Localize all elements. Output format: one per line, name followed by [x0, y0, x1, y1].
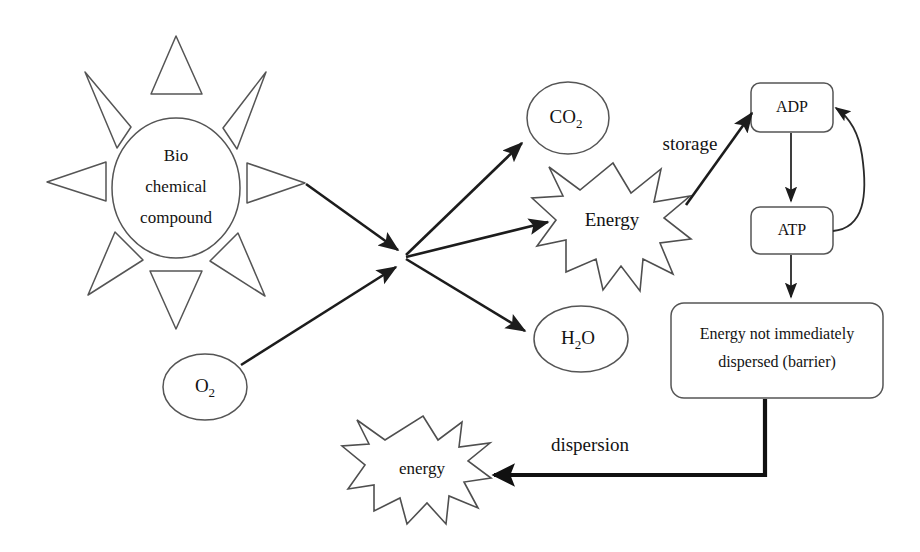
dispersion-edge-label: dispersion — [551, 434, 630, 455]
arrow-compound-to-junction — [306, 184, 398, 250]
adp-label: ADP — [776, 98, 808, 115]
biochemical-compound-label-line1: Bio — [164, 146, 189, 165]
sun-ray-upper-right-icon — [223, 72, 266, 149]
sun-ray-lower-right-icon — [210, 233, 265, 296]
arrow-atp-to-adp-return — [833, 108, 864, 231]
sun-ray-upper-left-icon — [85, 72, 131, 148]
arrow-oxygen-to-junction — [241, 267, 396, 365]
arrow-junction-to-carbon-dioxide — [406, 143, 522, 255]
atp-label: ATP — [778, 221, 807, 238]
carbon-dioxide-label-main: CO — [550, 106, 576, 127]
arrow-junction-to-energy — [406, 222, 548, 257]
arrow-barrier-to-dispersed-energy — [494, 399, 765, 475]
oxygen-label-main: O — [195, 375, 209, 396]
arrow-energy-to-adp-storage — [686, 113, 752, 205]
oxygen-label-subscript: 2 — [209, 385, 216, 400]
sun-ray-bottom-icon — [150, 271, 202, 329]
water-label-o: O — [581, 327, 595, 348]
barrier-node — [671, 303, 883, 398]
carbon-dioxide-label-subscript: 2 — [576, 116, 583, 131]
sun-ray-right-icon — [247, 163, 305, 203]
water-label-h: H — [561, 327, 575, 348]
sun-ray-left-icon — [47, 162, 106, 201]
barrier-label-line2: dispersed (barrier) — [718, 353, 836, 371]
dispersed-energy-burst-label: energy — [399, 459, 445, 478]
biochemical-compound-label-line2: chemical — [145, 177, 207, 196]
biochemical-compound-label-line3: compound — [140, 208, 212, 227]
arrow-junction-to-water — [406, 259, 525, 331]
energy-burst-label: Energy — [585, 209, 640, 230]
storage-edge-label: storage — [663, 133, 718, 154]
barrier-label-line1: Energy not immediately — [700, 325, 854, 343]
sun-ray-top-icon — [151, 36, 202, 94]
diagram-canvas: Bio chemical compound O2 CO2 H2O Energy … — [0, 0, 920, 552]
